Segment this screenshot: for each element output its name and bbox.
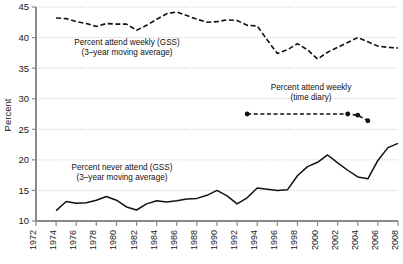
annot-weekly-gss-line1: Percent attend weekly (GSS) — [74, 38, 180, 47]
x-tick-label: 1998 — [289, 230, 299, 250]
y-tick-label: 40 — [18, 32, 29, 43]
x-tick-label: 1996 — [269, 230, 279, 250]
y-ticks-group: 1015202530354045 — [18, 1, 36, 226]
x-tick-label: 1982 — [129, 230, 139, 250]
y-axis-label: Percent — [2, 98, 13, 131]
annotations-group: Percent attend weekly (GSS)(3–year movin… — [71, 38, 352, 182]
series-marker — [365, 118, 370, 123]
annot-time-diary-line1: Percent attend weekly — [271, 83, 352, 92]
x-tick-label: 1990 — [209, 230, 219, 250]
x-tick-label: 1992 — [229, 230, 239, 250]
x-tick-label: 1978 — [88, 230, 98, 250]
x-tick-label: 1980 — [108, 230, 118, 250]
line-chart: 1015202530354045 19721974197619781980198… — [0, 0, 403, 264]
x-tick-label: 1994 — [249, 230, 259, 250]
x-tick-label: 1974 — [48, 230, 58, 250]
x-tick-label: 1972 — [28, 230, 38, 250]
x-tick-label: 1988 — [189, 230, 199, 250]
y-tick-label: 20 — [18, 154, 29, 165]
x-tick-label: 2000 — [310, 230, 320, 250]
x-tick-label: 1976 — [68, 230, 78, 250]
y-tick-label: 15 — [18, 185, 29, 196]
annot-weekly-gss-line2: (3–year moving average) — [81, 48, 172, 57]
annot-time-diary-line2: (time diary) — [291, 93, 332, 102]
x-ticks-group: 1972197419761978198019821984198619881990… — [28, 221, 400, 250]
y-tick-label: 30 — [18, 93, 29, 104]
x-tick-label: 2002 — [330, 230, 340, 250]
series-marker — [245, 112, 250, 117]
y-tick-label: 35 — [18, 63, 29, 74]
annot-never-gss-line1: Percent never attend (GSS) — [71, 163, 172, 172]
series-marker — [355, 113, 360, 118]
y-tick-label: 25 — [18, 124, 29, 135]
series-marker — [345, 112, 350, 117]
x-tick-label: 2008 — [390, 230, 400, 250]
annot-never-gss-line2: (3–year moving average) — [76, 173, 167, 182]
y-tick-label: 10 — [18, 215, 29, 226]
y-tick-label: 45 — [18, 1, 29, 12]
x-tick-label: 2004 — [350, 230, 360, 250]
x-tick-label: 2006 — [370, 230, 380, 250]
x-tick-label: 1984 — [149, 230, 159, 250]
x-tick-label: 1986 — [169, 230, 179, 250]
chart-container: 1015202530354045 19721974197619781980198… — [0, 0, 403, 264]
